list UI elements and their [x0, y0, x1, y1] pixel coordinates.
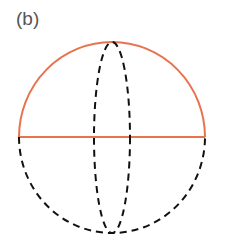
sphere-diagram — [0, 0, 225, 251]
lower-hemisphere-arc — [19, 137, 205, 233]
upper-hemisphere-arc — [19, 42, 205, 137]
